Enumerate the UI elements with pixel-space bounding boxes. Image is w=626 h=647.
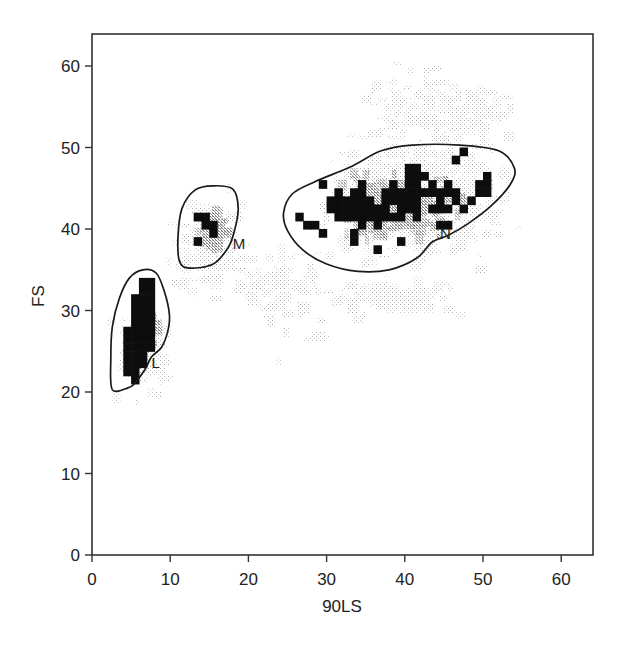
density-cell [131,327,139,336]
density-cell [139,343,147,352]
density-cell [413,188,421,197]
density-cell [123,343,131,352]
y-tick-label: 60 [61,57,80,76]
density-cell [374,245,382,254]
density-cell [397,237,405,246]
density-cell [147,302,155,311]
density-cell [303,221,311,230]
density-cell [381,196,389,205]
y-tick-label: 10 [61,465,80,484]
density-cell [201,213,209,222]
density-cell [413,196,421,205]
y-tick-label: 0 [71,546,80,565]
density-cell [475,188,483,197]
density-cell [413,164,421,173]
density-cell [483,172,491,181]
density-cell [131,302,139,311]
density-cell [452,156,460,165]
density-cell [397,213,405,222]
density-cell [428,180,436,189]
density-cell [358,180,366,189]
density-cell [350,229,358,238]
density-cell [350,188,358,197]
density-cell [139,335,147,344]
density-cell [460,148,468,157]
density-cell [139,327,147,336]
density-cell [397,188,405,197]
density-cell [319,180,327,189]
gate-m-label: M [233,235,246,252]
density-cell [334,213,342,222]
density-cell [131,335,139,344]
density-cell [389,213,397,222]
density-cell [444,205,452,214]
density-cell [139,311,147,320]
density-cell [452,196,460,205]
low-density-cloud [108,62,520,405]
density-cell [413,213,421,222]
density-cell [475,180,483,189]
density-cell [139,286,147,295]
density-cell [389,188,397,197]
density-cell [334,205,342,214]
density-cell [342,213,350,222]
density-cell [209,221,217,230]
x-tick-label: 50 [474,570,493,589]
density-cell [350,213,358,222]
density-cell [374,213,382,222]
density-cell [358,221,366,230]
density-cell [413,180,421,189]
density-cell [405,196,413,205]
density-cell [342,196,350,205]
density-cell [295,213,303,222]
density-cell [381,205,389,214]
y-axis-title: FS [29,285,48,307]
gate-n-label: N [440,225,451,242]
density-cell [350,205,358,214]
x-tick-label: 30 [317,570,336,589]
density-cell [327,196,335,205]
y-tick-label: 30 [61,302,80,321]
density-cell [366,205,374,214]
x-tick-label: 10 [161,570,180,589]
gate-l-label: L [151,354,159,371]
density-cell [428,188,436,197]
y-axis: 0102030405060 [61,57,92,565]
density-cell [139,351,147,360]
density-cell [327,205,335,214]
y-tick-label: 20 [61,383,80,402]
density-cell [397,196,405,205]
density-cell [381,188,389,197]
density-cell [389,180,397,189]
density-cell [483,180,491,189]
density-cell [334,188,342,197]
density-cell [147,319,155,328]
density-cell [436,205,444,214]
density-cell [131,311,139,320]
density-cell [374,221,382,230]
density-cell [139,319,147,328]
x-tick-label: 40 [395,570,414,589]
density-cell [311,221,319,230]
density-cell [366,213,374,222]
density-cell [420,172,428,181]
density-cell [444,188,452,197]
density-cell [460,205,468,214]
density-cell [131,368,139,377]
density-cell [123,335,131,344]
density-cell [444,180,452,189]
scatter-density-plot: LMN 0102030405060 0102030405060 90LS FS [0,0,626,647]
density-cell [131,359,139,368]
density-cell [389,196,397,205]
density-cell [131,351,139,360]
density-cell [123,368,131,377]
density-cell [131,294,139,303]
density-cell [319,229,327,238]
density-cell [131,319,139,328]
density-cell [366,196,374,205]
density-cell [428,205,436,214]
density-cell [413,205,421,214]
density-cell [405,164,413,173]
density-cell [413,172,421,181]
density-cell [436,196,444,205]
